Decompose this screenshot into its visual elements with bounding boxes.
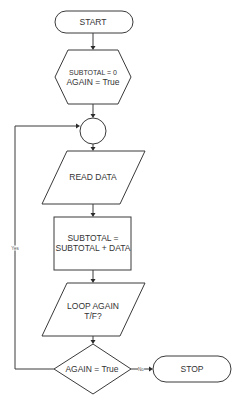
process-label-line2: SUBTOTAL + DATA bbox=[56, 243, 131, 254]
stop-label: STOP bbox=[181, 364, 204, 375]
input-label-line1: LOOP AGAIN bbox=[67, 301, 119, 312]
arrowhead-icon bbox=[91, 147, 96, 151]
decision-label: AGAIN = True bbox=[65, 364, 118, 375]
connector-circle bbox=[80, 118, 106, 144]
arrowhead-icon bbox=[76, 124, 80, 129]
process-label-line1: SUBTOTAL = bbox=[67, 233, 118, 244]
read-data-label: READ DATA bbox=[69, 172, 116, 183]
arrowhead-icon bbox=[91, 340, 96, 344]
yes-edge-label: Yes bbox=[11, 246, 18, 251]
start-label: START bbox=[79, 17, 106, 28]
arrowhead-icon bbox=[91, 114, 96, 118]
no-edge-label: No bbox=[138, 367, 144, 372]
init-label-line2: AGAIN = True bbox=[66, 77, 119, 88]
arrowhead-icon bbox=[91, 279, 96, 283]
flowchart-canvas bbox=[0, 0, 246, 405]
input-label-line2: T/F? bbox=[84, 311, 101, 322]
init-label-line1: SUBTOTAL = 0 bbox=[69, 68, 117, 77]
arrowhead-icon bbox=[91, 213, 96, 217]
arrowhead-icon bbox=[149, 367, 153, 372]
arrowhead-icon bbox=[91, 46, 96, 50]
